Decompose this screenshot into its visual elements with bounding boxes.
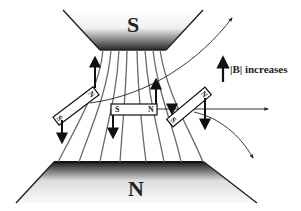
magnet-center-end-a: S — [115, 105, 120, 114]
trajectory-lower — [194, 112, 253, 158]
magnet-center: S N — [111, 104, 157, 115]
north-pole: N — [16, 162, 257, 203]
magnetic-field-diagram: S N N S S N S N — [0, 0, 301, 211]
south-pole: S — [63, 10, 203, 50]
magnet-left: N S — [53, 87, 99, 125]
south-pole-label: S — [127, 12, 139, 37]
north-pole-label: N — [128, 176, 144, 201]
magnet-center-end-b: N — [148, 105, 154, 114]
legend: |B| increases — [223, 58, 288, 82]
legend-label: |B| increases — [230, 63, 288, 75]
